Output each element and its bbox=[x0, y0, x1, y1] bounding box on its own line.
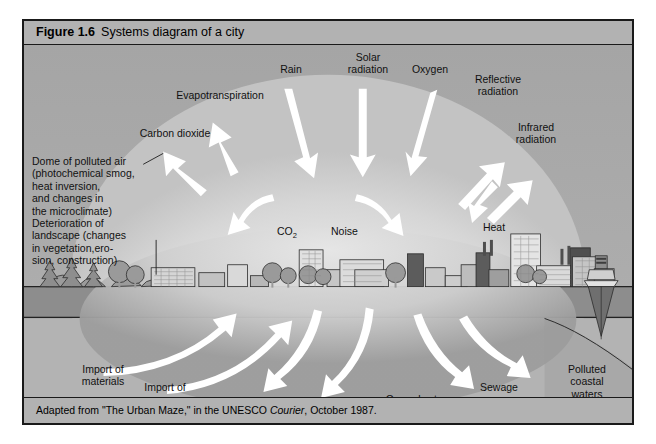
diagram-svg bbox=[24, 45, 632, 397]
diagram-scene: Dome of polluted air (photochemical smog… bbox=[24, 45, 632, 397]
figure-number: Figure 1.6 bbox=[36, 25, 95, 39]
figure-caption-bar: Adapted from "The Urban Maze," in the UN… bbox=[24, 397, 632, 423]
building bbox=[199, 273, 225, 287]
building bbox=[489, 270, 509, 287]
caption-suffix: , October 1987. bbox=[304, 404, 376, 416]
smokestack bbox=[567, 246, 570, 265]
building bbox=[228, 265, 248, 287]
figure-source-caption: Adapted from "The Urban Maze," in the UN… bbox=[36, 404, 377, 416]
figure-title: Systems diagram of a city bbox=[101, 25, 244, 39]
smokestack bbox=[483, 242, 486, 256]
caption-italic-title: Courier bbox=[270, 404, 304, 416]
caption-prefix: Adapted from "The Urban Maze," in the UN… bbox=[36, 404, 270, 416]
figure-title-bar: Figure 1.6Systems diagram of a city bbox=[24, 21, 632, 45]
building-dark bbox=[476, 253, 490, 287]
figure-frame: Figure 1.6Systems diagram of a city bbox=[22, 19, 634, 425]
building-dark bbox=[407, 254, 423, 287]
ship-hull bbox=[584, 281, 618, 287]
ship-superstructure bbox=[587, 270, 615, 280]
smokestack bbox=[490, 240, 493, 256]
smokestack bbox=[560, 249, 563, 265]
page-title: Figure 1.6Systems diagram of a city bbox=[36, 25, 244, 39]
building bbox=[425, 268, 445, 287]
building bbox=[355, 270, 389, 287]
building bbox=[461, 265, 477, 287]
